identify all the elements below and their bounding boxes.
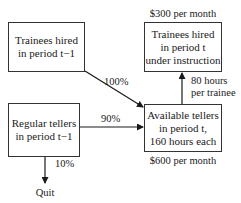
node-trainees-now-line3: under instruction	[146, 54, 221, 67]
node-trainees-prev-line1: Trainees hired	[15, 34, 78, 47]
node-trainees-now-line1: Trainees hired	[146, 28, 221, 41]
node-available-now-line3: 160 hours each	[147, 135, 219, 148]
teller-cost-label: $600 per month	[144, 155, 222, 167]
node-available-now-line2: in period t,	[147, 122, 219, 135]
node-trainees-now-line2: in period t	[146, 41, 221, 54]
node-trainees-prev: Trainees hired in period t−1	[8, 22, 85, 72]
node-trainees-prev-line2: in period t−1	[15, 47, 78, 60]
node-regular-prev-line1: Regular tellers	[12, 117, 76, 130]
node-trainees-now: Trainees hired in period t under instruc…	[144, 22, 222, 72]
edge-label-80-hours: 80 hours per trainee	[191, 75, 236, 99]
edge-label-100-percent: 100%	[104, 76, 129, 88]
node-regular-prev-line2: in period t−1	[12, 130, 76, 143]
trainee-cost-label: $300 per month	[144, 8, 222, 20]
node-regular-prev: Regular tellers in period t−1	[8, 103, 80, 157]
edge-label-80-hours-line2: per trainee	[191, 87, 236, 99]
quit-label: Quit	[25, 187, 65, 199]
node-available-now-line1: Available tellers	[147, 109, 219, 122]
node-available-now: Available tellers in period t, 160 hours…	[144, 104, 222, 152]
edge-label-10-percent: 10%	[55, 158, 74, 170]
edge-label-90-percent: 90%	[101, 113, 120, 125]
edge-label-80-hours-line1: 80 hours	[191, 75, 236, 87]
